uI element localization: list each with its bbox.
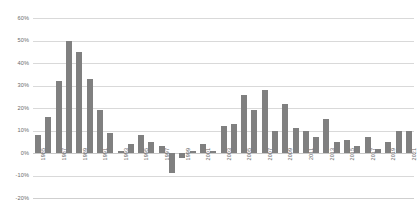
bar <box>87 79 93 153</box>
x-axis-tick-label: 2019 <box>390 148 396 160</box>
bar <box>262 90 268 153</box>
x-axis-tick-label: 1991 <box>102 148 108 160</box>
x-axis-tick-label: 1997 <box>164 148 170 160</box>
y-axis-tick-label: 60% <box>1 15 29 21</box>
x-axis-tick-label: 2007 <box>267 148 273 160</box>
x-axis-tick-label: 2009 <box>287 148 293 160</box>
x-axis-tick-label: 1993 <box>123 148 129 160</box>
y-axis-tick-label: -20% <box>1 195 29 201</box>
x-axis-tick-label: 2003 <box>226 148 232 160</box>
y-axis-tick-label: 10% <box>1 127 29 133</box>
bar <box>66 41 72 154</box>
bar-chart: 1985198719891991199319951997199920012003… <box>0 0 418 222</box>
x-axis-tick-label: 2021 <box>411 148 417 160</box>
y-axis-tick-label: -10% <box>1 172 29 178</box>
x-axis-tick-label: 1999 <box>185 148 191 160</box>
gridline <box>33 198 414 199</box>
y-axis-tick-label: 40% <box>1 60 29 66</box>
x-axis-tick-label: 2015 <box>349 148 355 160</box>
x-axis-tick-label: 2011 <box>308 148 314 160</box>
bar <box>76 52 82 153</box>
x-axis-tick-label: 2001 <box>205 148 211 160</box>
x-axis-tick-label: 1985 <box>40 148 46 160</box>
x-axis-labels-group: 1985198719891991199319951997199920012003… <box>33 146 414 186</box>
x-axis-tick-label: 1995 <box>143 148 149 160</box>
bar <box>241 95 247 154</box>
y-axis-tick-label: 0% <box>1 150 29 156</box>
x-axis-tick-label: 2017 <box>370 148 376 160</box>
bar <box>56 81 62 153</box>
x-axis-tick-label: 1987 <box>61 148 67 160</box>
y-axis-tick-label: 30% <box>1 82 29 88</box>
y-axis-tick-label: 20% <box>1 105 29 111</box>
y-axis-tick-label: 50% <box>1 37 29 43</box>
x-axis-tick-label: 1989 <box>82 148 88 160</box>
x-axis-tick-label: 2005 <box>246 148 252 160</box>
x-axis-tick-label: 2013 <box>329 148 335 160</box>
